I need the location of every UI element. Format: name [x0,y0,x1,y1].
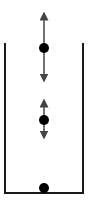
diagram-canvas [0,0,93,206]
particle-dot [39,43,49,53]
particle-dot [39,183,49,193]
particle-top [39,16,49,78]
particle-dot [39,115,49,125]
particle-middle [39,103,49,135]
particle-bottom [39,183,49,193]
